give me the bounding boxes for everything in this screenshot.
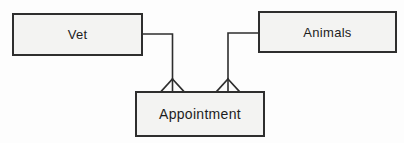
entity-appointment-label: Appointment [159, 106, 241, 122]
connector-line [143, 34, 173, 91]
crows-foot-many-icon [162, 79, 184, 91]
er-diagram-canvas: Vet Animals Appointment [0, 0, 404, 143]
connector-vet-appointment [143, 34, 184, 91]
entity-animals: Animals [258, 11, 397, 53]
crows-foot-many-icon [217, 79, 239, 91]
connector-line [228, 33, 258, 91]
connector-animals-appointment [217, 33, 258, 91]
entity-animals-label: Animals [303, 25, 351, 40]
entity-vet: Vet [12, 13, 143, 56]
entity-appointment: Appointment [135, 91, 265, 137]
entity-vet-label: Vet [68, 27, 88, 42]
